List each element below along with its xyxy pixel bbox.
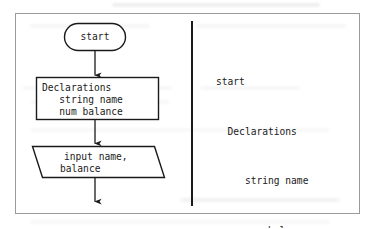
- pseudocode-panel: start Declarations string name num balan…: [216, 41, 349, 228]
- node-declarations: Declarations string name num balance: [37, 78, 159, 120]
- pseudocode-line: Declarations: [216, 124, 349, 141]
- input-label-line-1: input name,: [64, 151, 128, 162]
- node-input: input name, balance: [33, 147, 165, 178]
- flowchart-figure: start Declarations string name num balan…: [0, 0, 376, 228]
- pseudocode-line: start: [216, 74, 349, 91]
- pseudocode-line: string name: [216, 173, 349, 190]
- pseudocode-line: num balance: [216, 223, 349, 229]
- declarations-label-line-2: string name: [42, 94, 123, 105]
- node-start: start: [65, 24, 126, 51]
- declarations-label-line-1: Declarations: [42, 82, 111, 93]
- input-label-line-2: balance: [60, 163, 101, 174]
- start-label: start: [81, 31, 110, 42]
- declarations-label-line-3: num balance: [42, 106, 123, 117]
